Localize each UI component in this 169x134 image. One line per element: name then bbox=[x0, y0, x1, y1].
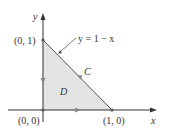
point-0-1 bbox=[41, 38, 44, 41]
point-1-0 bbox=[110, 108, 113, 111]
leader-line bbox=[60, 38, 76, 52]
region-label-d: D bbox=[59, 86, 68, 97]
point-label-origin: (0, 0) bbox=[18, 115, 40, 127]
point-origin bbox=[41, 108, 44, 111]
y-axis-label: y bbox=[32, 11, 38, 22]
y-axis-arrow-icon bbox=[41, 13, 46, 20]
point-label-0-1: (0, 1) bbox=[14, 35, 36, 47]
curve-label: y = 1 − x bbox=[78, 33, 114, 44]
x-axis-label: x bbox=[150, 115, 156, 126]
boundary-label-c: C bbox=[84, 66, 91, 77]
x-axis-arrow-icon bbox=[150, 108, 157, 113]
diagram-canvas: y x (0, 1) (0, 0) (1, 0) y = 1 − x C D bbox=[0, 0, 169, 134]
point-label-1-0: (1, 0) bbox=[103, 115, 125, 127]
